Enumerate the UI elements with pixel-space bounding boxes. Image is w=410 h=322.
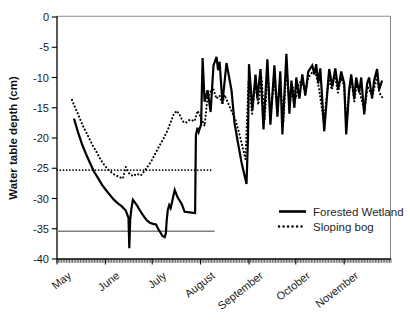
y-axis: 0-5-10-15-20-25-30-35-40 xyxy=(33,11,57,265)
y-tick-label: -25 xyxy=(33,162,49,174)
x-minor-ticks xyxy=(57,259,391,263)
x-tick-label-may: May xyxy=(49,269,73,292)
x-tick-label-august: August xyxy=(182,269,216,300)
chart-canvas: 0-5-10-15-20-25-30-35-40MayJuneJulyAugus… xyxy=(0,0,410,322)
x-tick-label-june: June xyxy=(95,269,121,293)
legend: Forested WetlandSloping bog xyxy=(279,206,404,233)
y-tick-label: -15 xyxy=(33,102,49,114)
y-tick-label: -30 xyxy=(33,193,49,205)
y-axis-title: Water table depth (cm) xyxy=(7,76,19,200)
y-tick-label: -35 xyxy=(33,223,49,235)
y-tick-label: -5 xyxy=(39,41,49,53)
water-table-depth-chart: 0-5-10-15-20-25-30-35-40MayJuneJulyAugus… xyxy=(0,0,410,322)
y-tick-label: -20 xyxy=(33,132,49,144)
legend-label-forested-wetland: Forested Wetland xyxy=(313,206,404,218)
x-tick-label-november: November xyxy=(313,269,361,310)
sloping-bog-line xyxy=(72,68,383,178)
legend-label-sloping-bog: Sloping bog xyxy=(313,221,374,233)
reference-lines xyxy=(57,170,215,231)
y-tick-label: 0 xyxy=(43,11,49,23)
y-tick-label: -40 xyxy=(33,253,49,265)
x-tick-label-september: September xyxy=(215,269,265,312)
series-lines xyxy=(72,54,383,248)
x-tick-label-october: October xyxy=(274,269,312,303)
y-tick-label: -10 xyxy=(33,72,49,84)
x-axis: MayJuneJulyAugustSeptemberOctoberNovembe… xyxy=(49,259,360,312)
x-tick-label-july: July xyxy=(146,269,169,291)
